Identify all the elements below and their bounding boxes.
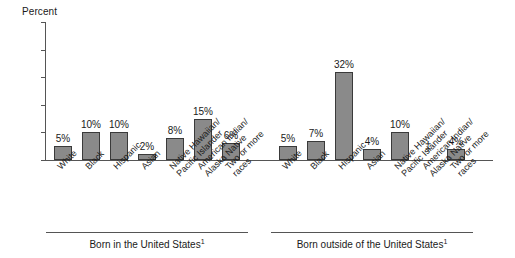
bar-value-label: 15% [193, 106, 213, 117]
y-tick: 20 [0, 105, 50, 106]
y-axis-line [45, 22, 46, 160]
y-tick: 0 [0, 160, 50, 161]
y-tick-mark [41, 105, 46, 106]
bar-value-label: 10% [109, 119, 129, 130]
bar-value-label: 8% [168, 125, 182, 136]
group-bracket-rule [271, 232, 474, 233]
bar-value-label: 5% [281, 133, 295, 144]
bar-value-label: 32% [334, 59, 354, 70]
group-caption: Born in the United States1 [89, 238, 204, 250]
y-tick-mark [41, 50, 46, 51]
group-bracket-rule [46, 232, 249, 233]
y-tick: 30 [0, 77, 50, 78]
y-tick: 40 [0, 50, 50, 51]
bar-value-label: 10% [390, 119, 410, 130]
group-caption-footnote-marker: 1 [201, 238, 205, 245]
y-tick-mark [41, 160, 46, 161]
y-tick: 50 [0, 22, 50, 23]
bar-value-label: 5% [56, 133, 70, 144]
y-tick-mark [41, 22, 46, 23]
bar-chart: Percent 01020304050 5%10%10%2%8%15%6%5%7… [0, 0, 515, 258]
bar-value-label: 10% [81, 119, 101, 130]
group-caption-footnote-marker: 1 [443, 238, 447, 245]
y-axis-title: Percent [22, 6, 57, 17]
y-tick: 10 [0, 132, 50, 133]
y-tick-mark [41, 132, 46, 133]
bar-value-label: 7% [309, 128, 323, 139]
group-caption: Born outside of the United States1 [297, 238, 448, 250]
bar [335, 72, 353, 160]
y-tick-mark [41, 77, 46, 78]
